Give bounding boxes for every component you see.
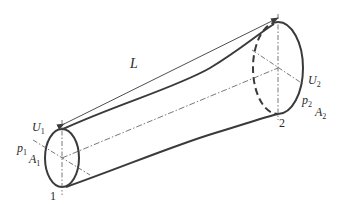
area-1-label: A1 xyxy=(28,152,40,168)
section-1-diagonal-axis xyxy=(33,140,90,175)
pressure-1-label: p1 xyxy=(16,141,27,157)
pipe-diagram: L U1 p1 A1 1 U2 p2 A2 2 xyxy=(0,0,345,204)
pressure-2-label: p2 xyxy=(301,93,312,109)
section-1-number: 1 xyxy=(50,189,56,203)
section-2-ellipse-front xyxy=(278,22,303,114)
section-2-number: 2 xyxy=(279,116,285,130)
length-dimension-arrow xyxy=(64,18,278,124)
velocity-2-label: U2 xyxy=(308,73,321,89)
pipe-axis-centerline xyxy=(62,68,278,158)
area-2-label: A2 xyxy=(314,105,326,121)
pipe-lower-wall xyxy=(66,114,278,187)
velocity-1-label: U1 xyxy=(32,120,45,136)
length-label: L xyxy=(129,56,138,71)
section-2-diagonal-axis xyxy=(252,50,303,84)
